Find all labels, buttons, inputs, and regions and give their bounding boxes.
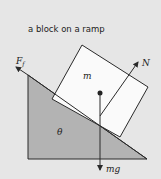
mass-label: m — [83, 71, 92, 81]
normal-label: N — [141, 58, 151, 68]
friction-label: Ff — [15, 56, 26, 68]
weight-label: mg — [106, 164, 121, 174]
friction-arrow — [16, 67, 28, 75]
ramp-diagram: Ff N m θ mg — [0, 0, 161, 179]
angle-label: θ — [57, 127, 63, 137]
